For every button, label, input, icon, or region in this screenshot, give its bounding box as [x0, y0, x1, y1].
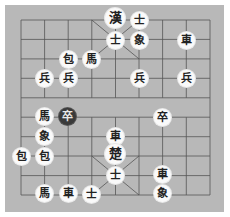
- piece-17[interactable]: 包: [36, 148, 53, 165]
- piece-23[interactable]: 士: [83, 186, 100, 203]
- piece-13[interactable]: 卒: [154, 109, 171, 126]
- piece-5[interactable]: 包: [60, 51, 77, 68]
- piece-0[interactable]: 漢: [105, 8, 125, 28]
- piece-15[interactable]: 車: [107, 128, 124, 145]
- piece-4[interactable]: 車: [178, 32, 195, 49]
- piece-21[interactable]: 馬: [36, 185, 53, 202]
- piece-22[interactable]: 車: [60, 185, 77, 202]
- piece-16[interactable]: 包: [13, 148, 30, 165]
- piece-18[interactable]: 楚: [105, 144, 125, 164]
- piece-3[interactable]: 象: [131, 32, 148, 49]
- piece-2[interactable]: 士: [107, 32, 124, 49]
- piece-24[interactable]: 象: [154, 185, 171, 202]
- piece-14[interactable]: 象: [36, 128, 53, 145]
- piece-9[interactable]: 兵: [131, 70, 148, 87]
- piece-8[interactable]: 兵: [60, 70, 77, 87]
- piece-20[interactable]: 車: [154, 166, 171, 183]
- piece-7[interactable]: 兵: [36, 70, 53, 87]
- piece-1[interactable]: 士: [131, 12, 148, 29]
- piece-11[interactable]: 馬: [36, 108, 53, 125]
- piece-19[interactable]: 士: [107, 167, 124, 184]
- piece-10[interactable]: 兵: [178, 70, 195, 87]
- piece-12[interactable]: 卒: [59, 108, 76, 125]
- piece-6[interactable]: 馬: [83, 51, 100, 68]
